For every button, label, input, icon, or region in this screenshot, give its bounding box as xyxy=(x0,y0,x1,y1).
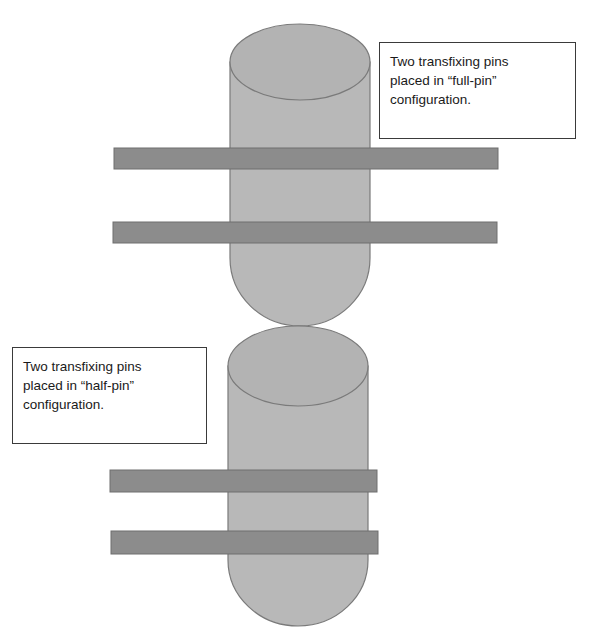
full-pin-label-line-2: placed in “full-pin” xyxy=(390,71,565,90)
half-pin-label-line-1: Two transfixing pins xyxy=(23,357,196,376)
full-pin-label-line-1: Two transfixing pins xyxy=(390,52,565,71)
half-pin-label-line-2: placed in “half-pin” xyxy=(23,376,196,395)
upper-bone-cylinder xyxy=(230,24,370,326)
full-pin-label-line-3: configuration. xyxy=(390,90,565,109)
half-pin-label-line-3: configuration. xyxy=(23,395,196,414)
half-pin-label-box: Two transfixing pins placed in “half-pin… xyxy=(12,347,207,444)
full-pin-2 xyxy=(113,222,497,243)
full-pin-label-box: Two transfixing pins placed in “full-pin… xyxy=(379,42,576,139)
half-pin-2 xyxy=(111,531,378,554)
half-pin-1 xyxy=(110,470,377,492)
full-pin-1 xyxy=(114,148,498,169)
